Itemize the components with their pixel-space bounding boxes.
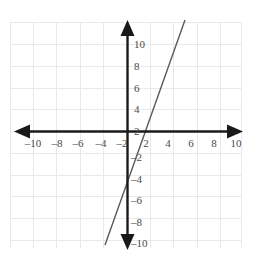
x-tick-label: –10 — [24, 137, 42, 149]
y-tick-label: 2 — [134, 125, 140, 137]
coordinate-plane-graph: –10 –8 –6 –4 –2 2 4 6 8 10 10 8 6 4 2 –2… — [0, 0, 257, 261]
x-tick-label: 2 — [143, 137, 149, 149]
x-tick-label: –6 — [72, 137, 85, 149]
y-tick-label: –2 — [130, 151, 142, 163]
y-tick-label: 8 — [134, 60, 140, 72]
x-tick-label: –2 — [116, 137, 128, 149]
x-tick-label: 8 — [211, 137, 217, 149]
y-tick-label: –4 — [130, 173, 143, 185]
x-tick-label: –4 — [95, 137, 108, 149]
x-tick-label: –8 — [51, 137, 64, 149]
y-tick-label: 10 — [134, 38, 146, 50]
y-tick-label: –10 — [130, 237, 148, 249]
x-tick-label: 4 — [165, 137, 171, 149]
y-tick-label: 4 — [134, 103, 140, 115]
y-tick-label: –6 — [130, 194, 143, 206]
x-tick-label: 6 — [188, 137, 194, 149]
x-tick-label: 10 — [231, 137, 243, 149]
y-tick-label: –8 — [130, 216, 143, 228]
y-tick-label: 6 — [134, 82, 140, 94]
graph-canvas: –10 –8 –6 –4 –2 2 4 6 8 10 10 8 6 4 2 –2… — [0, 0, 257, 261]
